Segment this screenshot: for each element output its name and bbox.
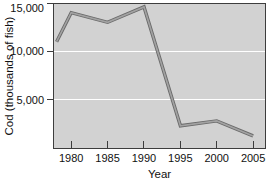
x-axis-title: Year [53,168,266,180]
cod-population-line-chart: 5,00010,00015,00019801985199019952000200… [0,0,273,185]
x-tick-label: 2000 [204,152,228,164]
x-tick-label: 1985 [95,152,119,164]
y-tick-label: 15,000 [10,2,44,14]
y-axis-title: Cod (thousands of fish) [3,17,15,136]
chart-canvas: 5,00010,00015,00019801985199019952000200… [0,0,273,185]
y-tick-label: 10,000 [10,45,44,57]
x-tick-label: 2005 [241,152,265,164]
x-tick-label: 1980 [59,152,83,164]
x-tick-label: 1995 [168,152,192,164]
y-tick-label: 5,000 [16,94,44,106]
x-tick-label: 1990 [132,152,156,164]
